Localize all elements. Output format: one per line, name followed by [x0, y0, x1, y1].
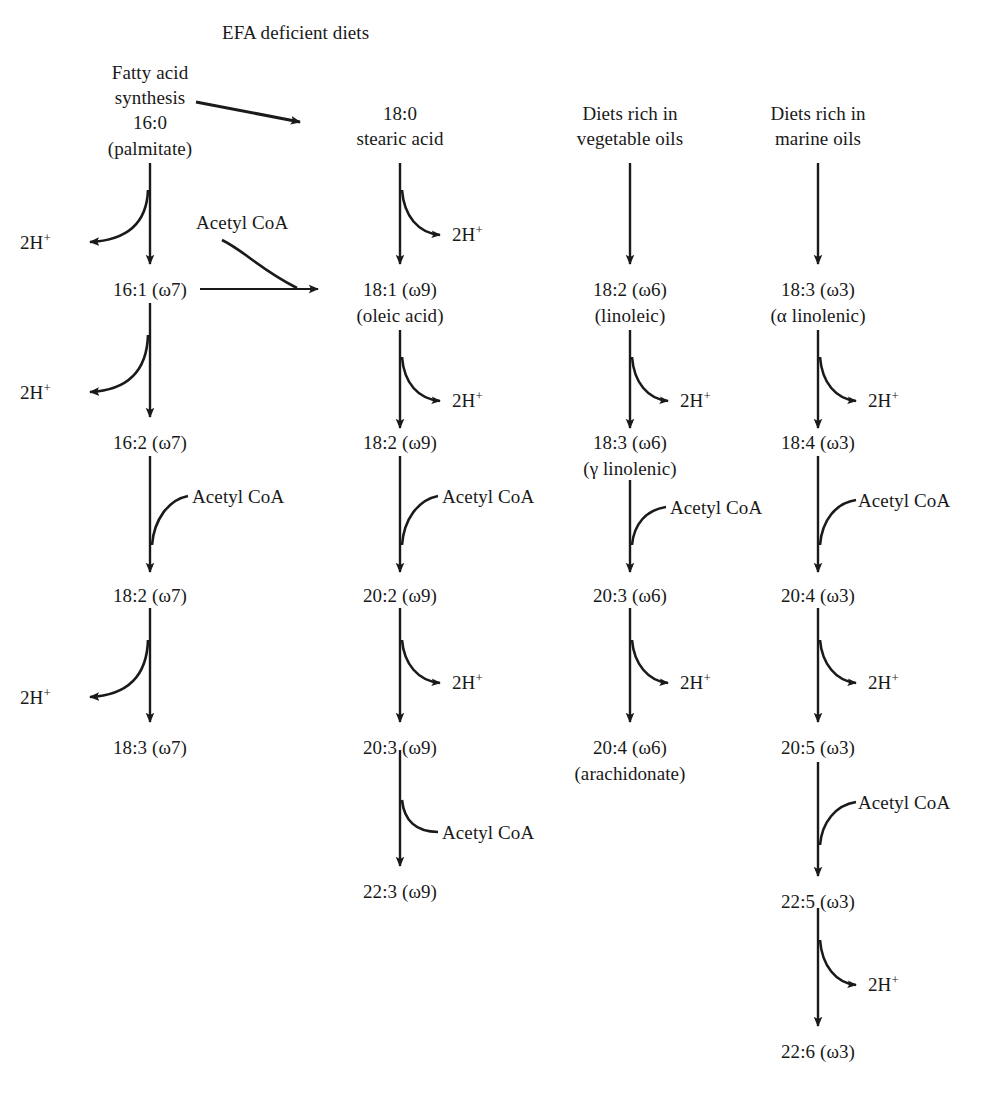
column2-header-line1: 18:0 — [383, 101, 417, 126]
node-16-1-w7: 16:1 (ω7) — [113, 277, 187, 302]
node-18-1-w9-common: (oleic acid) — [356, 303, 443, 328]
node-22-5-w3: 22:5 (ω3) — [781, 889, 855, 914]
column2-header-line2: stearic acid — [356, 126, 443, 151]
column4-header-line1: Diets rich in — [770, 101, 865, 126]
cofactor-acetyl-coa-3: Acetyl CoA — [442, 484, 534, 509]
column3-header-line1: Diets rich in — [582, 101, 677, 126]
node-22-3-w9: 22:3 (ω9) — [363, 879, 437, 904]
node-16-0-common: (palmitate) — [108, 136, 192, 161]
byproduct-2h-c3-s2: 2H+ — [680, 670, 711, 695]
node-18-2-w9: 18:2 (ω9) — [363, 430, 437, 455]
node-18-3-w7: 18:3 (ω7) — [113, 735, 187, 760]
efa-title: EFA deficient diets — [222, 20, 369, 45]
node-20-4-w6: 20:4 (ω6) — [593, 735, 667, 760]
node-18-3-w3-common: (α linolenic) — [770, 303, 865, 328]
node-20-4-w6-common: (arachidonate) — [574, 761, 685, 786]
byproduct-2h-c4-s2: 2H+ — [868, 670, 899, 695]
byproduct-2h-c3-s1: 2H+ — [680, 388, 711, 413]
column3-header-line2: vegetable oils — [577, 126, 683, 151]
node-18-3-w6: 18:3 (ω6) — [593, 430, 667, 455]
byproduct-2h-c4-s1: 2H+ — [868, 388, 899, 413]
node-18-2-w7: 18:2 (ω7) — [113, 583, 187, 608]
node-18-3-w6-common: (γ linolenic) — [583, 456, 677, 481]
cofactor-acetyl-coa-2: Acetyl CoA — [192, 484, 284, 509]
cofactor-acetyl-coa-7: Acetyl CoA — [858, 790, 950, 815]
column1-header-line2: synthesis — [115, 85, 186, 110]
node-18-1-w9: 18:1 (ω9) — [363, 277, 437, 302]
cofactor-acetyl-coa-6: Acetyl CoA — [858, 488, 950, 513]
node-22-6-w3: 22:6 (ω3) — [781, 1039, 855, 1064]
node-20-5-w3: 20:5 (ω3) — [781, 735, 855, 760]
cofactor-acetyl-coa-4: Acetyl CoA — [442, 820, 534, 845]
node-20-3-w9: 20:3 (ω9) — [363, 735, 437, 760]
column1-header-line1: Fatty acid — [112, 60, 188, 85]
byproduct-2h-c2-s3: 2H+ — [452, 670, 483, 695]
byproduct-2h-c2-s1: 2H+ — [452, 222, 483, 247]
node-18-4-w3: 18:4 (ω3) — [781, 430, 855, 455]
node-20-4-w3: 20:4 (ω3) — [781, 583, 855, 608]
node-18-2-w6: 18:2 (ω6) — [593, 277, 667, 302]
cofactor-acetyl-coa-5: Acetyl CoA — [670, 495, 762, 520]
node-16-0: 16:0 — [133, 110, 167, 135]
byproduct-2h-c1-s2: 2H+ — [20, 380, 51, 405]
byproduct-2h-c1-s3: 2H+ — [20, 685, 51, 710]
node-20-3-w6: 20:3 (ω6) — [593, 583, 667, 608]
column4-header-line2: marine oils — [775, 126, 861, 151]
node-20-2-w9: 20:2 (ω9) — [363, 583, 437, 608]
arrow-layer — [0, 0, 987, 1093]
node-16-2-w7: 16:2 (ω7) — [113, 430, 187, 455]
cofactor-acetyl-coa-1: Acetyl CoA — [196, 210, 288, 235]
node-18-3-w3: 18:3 (ω3) — [781, 277, 855, 302]
byproduct-2h-c1-s1: 2H+ — [20, 230, 51, 255]
pathway-diagram: EFA deficient diets Fatty acid synthesis… — [0, 0, 987, 1093]
byproduct-2h-c4-s3: 2H+ — [868, 972, 899, 997]
node-18-2-w6-common: (linoleic) — [595, 303, 666, 328]
byproduct-2h-c2-s2: 2H+ — [452, 388, 483, 413]
